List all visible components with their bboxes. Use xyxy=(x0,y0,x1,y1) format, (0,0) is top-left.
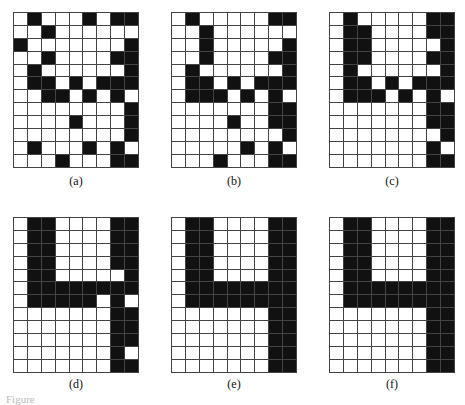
grid-cell xyxy=(28,218,42,231)
grid-cell xyxy=(344,39,358,52)
grid-cell xyxy=(228,129,242,142)
grid-cell xyxy=(330,334,344,347)
grid-cell xyxy=(269,52,283,65)
grid-cell xyxy=(28,308,42,321)
grid-cell xyxy=(214,295,228,308)
grid-cell xyxy=(97,90,111,103)
grid-cell xyxy=(441,142,455,155)
grid-cell xyxy=(214,26,228,39)
panel-label-d: (d) xyxy=(13,377,139,392)
grid-cell xyxy=(241,347,255,360)
grid-cell xyxy=(186,270,200,283)
grid-cell xyxy=(42,321,56,334)
grid-cell xyxy=(441,282,455,295)
grid-cell xyxy=(125,270,139,283)
grid-cell xyxy=(358,231,372,244)
grid-cell xyxy=(283,308,297,321)
grid-cell xyxy=(42,308,56,321)
grid-cell xyxy=(28,244,42,257)
grid-cell xyxy=(70,321,84,334)
grid-cell xyxy=(399,103,413,116)
grid-cell xyxy=(283,13,297,26)
grid-cell xyxy=(255,347,269,360)
grid-cell xyxy=(386,231,400,244)
grid-cell xyxy=(228,282,242,295)
grid-cell xyxy=(413,129,427,142)
grid-cell xyxy=(241,244,255,257)
grid-cell xyxy=(42,65,56,78)
grid-cell xyxy=(241,282,255,295)
grid-cell xyxy=(386,129,400,142)
grid-cell xyxy=(255,334,269,347)
grid-cell xyxy=(28,347,42,360)
grid-cell xyxy=(241,321,255,334)
grid-cell xyxy=(441,231,455,244)
grid-cell xyxy=(111,142,125,155)
grid-cell xyxy=(358,13,372,26)
grid-cell xyxy=(70,282,84,295)
grid-cell xyxy=(125,103,139,116)
pixel-grid-d xyxy=(13,217,139,373)
grid-cell xyxy=(344,295,358,308)
grid-cell xyxy=(372,129,386,142)
grid-cell xyxy=(255,52,269,65)
grid-cell xyxy=(241,257,255,270)
grid-cell xyxy=(200,321,214,334)
grid-cell xyxy=(228,270,242,283)
grid-cell xyxy=(214,321,228,334)
grid-cell xyxy=(56,282,70,295)
grid-cell xyxy=(214,142,228,155)
grid-cell xyxy=(83,244,97,257)
grid-cell xyxy=(28,116,42,129)
grid-cell xyxy=(372,295,386,308)
grid-cell xyxy=(200,257,214,270)
grid-cell xyxy=(228,308,242,321)
grid-cell xyxy=(255,218,269,231)
grid-cell xyxy=(214,103,228,116)
grid-cell xyxy=(255,13,269,26)
grid-cell xyxy=(441,90,455,103)
grid-cell xyxy=(399,39,413,52)
grid-cell xyxy=(399,155,413,168)
grid-cell xyxy=(427,103,441,116)
grid-cell xyxy=(56,77,70,90)
grid-cell xyxy=(70,270,84,283)
grid-cell xyxy=(42,347,56,360)
grid-cell xyxy=(283,231,297,244)
grid-cell xyxy=(172,218,186,231)
grid-cell xyxy=(386,282,400,295)
grid-cell xyxy=(241,52,255,65)
grid-cell xyxy=(330,129,344,142)
grid-cell xyxy=(172,282,186,295)
grid-cell xyxy=(441,77,455,90)
grid-cell xyxy=(330,231,344,244)
grid-cell xyxy=(125,360,139,373)
grid-cell xyxy=(241,270,255,283)
grid-cell xyxy=(413,26,427,39)
grid-cell xyxy=(186,347,200,360)
grid-cell xyxy=(83,116,97,129)
panel-label-f: (f) xyxy=(329,377,455,392)
grid-cell xyxy=(97,77,111,90)
grid-cell xyxy=(70,244,84,257)
grid-cell xyxy=(344,257,358,270)
grid-cell xyxy=(427,347,441,360)
grid-cell xyxy=(97,65,111,78)
grid-cell xyxy=(28,257,42,270)
grid-cell xyxy=(372,52,386,65)
grid-cell xyxy=(427,308,441,321)
grid-cell xyxy=(441,26,455,39)
grid-cell xyxy=(413,360,427,373)
grid-cell xyxy=(111,244,125,257)
grid-cell xyxy=(413,334,427,347)
grid-cell xyxy=(214,231,228,244)
grid-cell xyxy=(111,155,125,168)
grid-cell xyxy=(186,52,200,65)
grid-cell xyxy=(358,103,372,116)
grid-cell xyxy=(56,321,70,334)
grid-cell xyxy=(111,360,125,373)
grid-cell xyxy=(372,347,386,360)
grid-cell xyxy=(125,65,139,78)
grid-cell xyxy=(344,155,358,168)
grid-cell xyxy=(111,282,125,295)
